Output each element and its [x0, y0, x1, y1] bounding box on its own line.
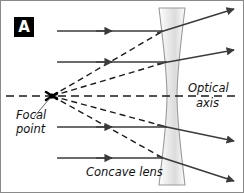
panel-letter-badge: A: [14, 17, 34, 37]
concave-lens-label: Concave lens: [86, 165, 163, 179]
concave-lens-figure: A Focal point Optical axis Concave lens: [0, 0, 244, 193]
focal-point-label-line1: Focal: [16, 108, 47, 122]
focal-point-label: Focal point: [15, 108, 47, 136]
optical-axis-label-line1: Optical: [188, 81, 229, 95]
ray-diagram-svg: A Focal point Optical axis Concave lens: [0, 0, 244, 193]
panel-letter-text: A: [18, 18, 30, 36]
optical-axis-label-line2: axis: [196, 96, 219, 110]
focal-point-label-line2: point: [15, 122, 46, 136]
